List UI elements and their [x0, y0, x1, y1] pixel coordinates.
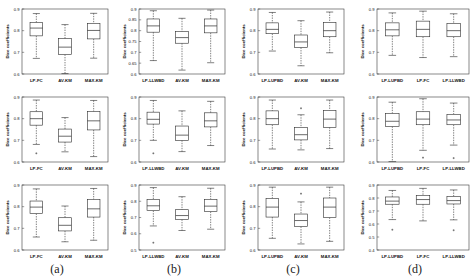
- svg-text:MAX-KM: MAX-KM: [202, 254, 220, 259]
- column-label-d: (d): [355, 262, 475, 277]
- svg-text:LP-LLWBD: LP-LLWBD: [443, 166, 465, 171]
- svg-text:0.6: 0.6: [369, 222, 375, 227]
- svg-text:0.6: 0.6: [131, 72, 137, 77]
- panel-a2: 0.60.70.80.9Dice coefficientsLP-FCAV-KMM…: [0, 92, 112, 176]
- svg-text:0.8: 0.8: [14, 28, 20, 33]
- svg-text:Dice coefficients: Dice coefficients: [5, 24, 10, 59]
- svg-text:AV-KM: AV-KM: [58, 166, 72, 171]
- panel-c1: 0.60.70.80.9Dice coefficientsLP-LUPBDAV-…: [236, 4, 348, 88]
- panel-c2: 0.60.70.80.9Dice coefficientsLP-LUPBDAV-…: [236, 92, 348, 176]
- column-label-b: (b): [117, 262, 231, 277]
- panel-d3: 0.40.50.60.70.80.9Dice coefficientsLP-LU…: [355, 180, 473, 264]
- svg-text:0.6: 0.6: [369, 160, 375, 165]
- svg-text:0.7: 0.7: [131, 215, 137, 220]
- figure-column-c: 0.60.70.80.9Dice coefficientsLP-LUPBDAV-…: [236, 0, 350, 279]
- svg-text:0.6: 0.6: [14, 72, 20, 77]
- svg-text:0.9: 0.9: [131, 183, 137, 188]
- svg-text:LP-LUPBD: LP-LUPBD: [261, 166, 283, 171]
- column-label-a: (a): [0, 262, 114, 277]
- svg-text:LP-LUPBD: LP-LUPBD: [261, 78, 283, 83]
- svg-text:0.7: 0.7: [14, 50, 20, 55]
- figure-column-b: 0.60.650.70.750.80.850.9Dice coefficient…: [117, 0, 231, 279]
- figure-column-d: 0.60.70.80.9Dice coefficientsLP-LUPBDLP-…: [355, 0, 475, 279]
- svg-text:0.9: 0.9: [369, 7, 375, 12]
- svg-text:0.65: 0.65: [129, 61, 138, 66]
- svg-text:LP-LUPBD: LP-LUPBD: [261, 254, 283, 259]
- svg-text:MAX-KM: MAX-KM: [85, 166, 103, 171]
- svg-text:AV-KM: AV-KM: [294, 78, 308, 83]
- svg-text:0.9: 0.9: [14, 7, 20, 12]
- svg-text:0.9: 0.9: [131, 95, 137, 100]
- svg-text:0.5: 0.5: [369, 235, 375, 240]
- svg-text:0.7: 0.7: [14, 226, 20, 231]
- svg-text:0.6: 0.6: [131, 231, 137, 236]
- svg-text:0.8: 0.8: [14, 116, 20, 121]
- svg-text:0.7: 0.7: [250, 226, 256, 231]
- panel-d2: 0.60.70.80.9Dice coefficientsLP-LUPBDLP-…: [355, 92, 473, 176]
- svg-text:0.9: 0.9: [369, 95, 375, 100]
- svg-text:0.8: 0.8: [250, 28, 256, 33]
- svg-text:0.6: 0.6: [131, 160, 137, 165]
- svg-text:0.8: 0.8: [369, 196, 375, 201]
- svg-text:MAX-KM: MAX-KM: [321, 254, 339, 259]
- svg-text:LP-LLWBD: LP-LLWBD: [142, 254, 164, 259]
- svg-text:0.6: 0.6: [14, 160, 20, 165]
- svg-text:0.8: 0.8: [250, 204, 256, 209]
- svg-text:Dice coefficients: Dice coefficients: [360, 24, 365, 59]
- svg-text:LP-LLWBD: LP-LLWBD: [142, 78, 164, 83]
- svg-text:Dice coefficients: Dice coefficients: [360, 200, 365, 235]
- svg-text:AV-KM: AV-KM: [294, 166, 308, 171]
- panel-a1: 0.60.70.80.9Dice coefficientsLP-FCAV-KMM…: [0, 4, 112, 88]
- svg-text:MAX-KM: MAX-KM: [202, 78, 220, 83]
- panel-d1: 0.60.70.80.9Dice coefficientsLP-LUPBDLP-…: [355, 4, 473, 88]
- svg-text:LP-LUPBD: LP-LUPBD: [381, 166, 403, 171]
- column-label-c: (c): [236, 262, 350, 277]
- svg-text:Dice coefficients: Dice coefficients: [122, 200, 127, 235]
- panel-c3: 0.60.70.80.9Dice coefficientsLP-LUPBDAV-…: [236, 180, 348, 264]
- svg-text:0.7: 0.7: [250, 50, 256, 55]
- svg-text:LP-FC: LP-FC: [417, 254, 430, 259]
- svg-text:Dice coefficients: Dice coefficients: [122, 24, 127, 59]
- svg-text:MAX-KM: MAX-KM: [85, 254, 103, 259]
- svg-text:0.9: 0.9: [250, 95, 256, 100]
- svg-text:LP-FC: LP-FC: [30, 166, 43, 171]
- svg-text:MAX-KM: MAX-KM: [321, 78, 339, 83]
- svg-text:0.8: 0.8: [250, 116, 256, 121]
- svg-text:0.6: 0.6: [250, 248, 256, 253]
- panel-b2: 0.60.70.80.9Dice coefficientsLP-LLWBDAV-…: [117, 92, 229, 176]
- svg-text:AV-KM: AV-KM: [58, 78, 72, 83]
- svg-text:LP-FC: LP-FC: [30, 78, 43, 83]
- svg-text:AV-KM: AV-KM: [175, 78, 189, 83]
- svg-text:0.85: 0.85: [129, 17, 138, 22]
- svg-text:Dice coefficients: Dice coefficients: [241, 112, 246, 147]
- svg-text:MAX-KM: MAX-KM: [202, 166, 220, 171]
- svg-text:0.8: 0.8: [14, 204, 20, 209]
- svg-text:AV-KM: AV-KM: [175, 254, 189, 259]
- panel-a3: 0.60.70.80.9Dice coefficientsLP-FCAV-KMM…: [0, 180, 112, 264]
- panel-b3: 0.50.60.70.80.9Dice coefficientsLP-LLWBD…: [117, 180, 229, 264]
- svg-text:0.6: 0.6: [369, 72, 375, 77]
- svg-text:LP-LLWBD: LP-LLWBD: [142, 166, 164, 171]
- svg-text:Dice coefficients: Dice coefficients: [241, 24, 246, 59]
- svg-text:0.5: 0.5: [131, 248, 137, 253]
- svg-text:0.75: 0.75: [129, 39, 138, 44]
- svg-text:Dice coefficients: Dice coefficients: [241, 200, 246, 235]
- svg-text:0.7: 0.7: [369, 209, 375, 214]
- svg-text:LP-FC: LP-FC: [417, 166, 430, 171]
- svg-text:AV-KM: AV-KM: [58, 254, 72, 259]
- svg-text:LP-FC: LP-FC: [30, 254, 43, 259]
- svg-text:Dice coefficients: Dice coefficients: [360, 112, 365, 147]
- svg-text:0.8: 0.8: [369, 28, 375, 33]
- svg-text:0.6: 0.6: [250, 72, 256, 77]
- svg-text:0.9: 0.9: [250, 183, 256, 188]
- svg-text:0.7: 0.7: [369, 50, 375, 55]
- svg-text:0.8: 0.8: [131, 199, 137, 204]
- svg-text:LP-LLWBD: LP-LLWBD: [443, 78, 465, 83]
- svg-text:0.7: 0.7: [369, 138, 375, 143]
- svg-text:0.7: 0.7: [14, 138, 20, 143]
- boxplot-figure-grid: 0.60.70.80.9Dice coefficientsLP-FCAV-KMM…: [0, 0, 475, 279]
- svg-text:0.8: 0.8: [131, 116, 137, 121]
- svg-text:MAX-KM: MAX-KM: [85, 78, 103, 83]
- svg-text:LP-FC: LP-FC: [417, 78, 430, 83]
- svg-text:Dice coefficients: Dice coefficients: [5, 112, 10, 147]
